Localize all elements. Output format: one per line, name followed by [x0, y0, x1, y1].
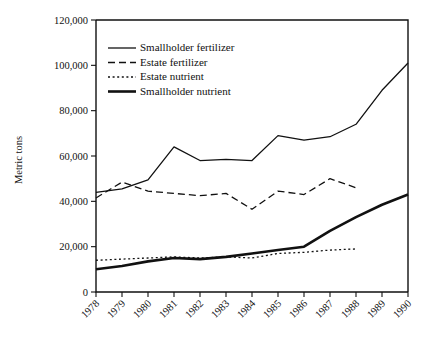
y-tick-label: 20,000 [59, 241, 88, 252]
legend-label: Smallholder nutrient [140, 85, 231, 97]
y-tick-label: 60,000 [59, 151, 88, 162]
chart-figure: 020,00040,00060,00080,000100,000120,000 … [0, 0, 425, 338]
y-tick-label: 100,000 [54, 60, 88, 71]
legend-label: Estate fertilizer [140, 56, 208, 68]
y-tick-label: 80,000 [59, 105, 88, 116]
y-tick-label: 120,000 [54, 15, 88, 26]
legend-label: Smallholder fertilizer [140, 41, 235, 53]
legend-label: Estate nutrient [140, 70, 204, 82]
line-chart: 020,00040,00060,00080,000100,000120,000 … [0, 0, 425, 338]
y-tick-label: 40,000 [59, 196, 88, 207]
y-tick-label: 0 [83, 287, 88, 298]
y-axis-title: Metric tons [13, 136, 24, 184]
